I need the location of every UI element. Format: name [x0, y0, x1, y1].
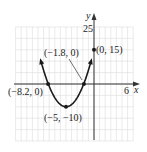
point-label-x-intercept-left: (−8.2, 0) — [8, 86, 43, 98]
parabola-chart: y 25 6 x (−8.2, 0) (−5, −10) (−1.8, 0) (… — [0, 0, 147, 152]
y-tick-label: 25 — [83, 23, 93, 34]
data-point — [64, 105, 68, 109]
x-tick-label: 6 — [124, 85, 129, 96]
leader-line — [69, 59, 82, 80]
point-label-vertex: (−5, −10) — [44, 112, 82, 124]
data-point — [82, 82, 86, 86]
point-label-x-intercept-right: (−1.8, 0) — [44, 47, 79, 59]
point-label-y-intercept: (0, 15) — [96, 44, 123, 56]
data-point — [46, 82, 50, 86]
x-axis-label: x — [133, 84, 139, 95]
y-axis-label: y — [85, 10, 91, 21]
